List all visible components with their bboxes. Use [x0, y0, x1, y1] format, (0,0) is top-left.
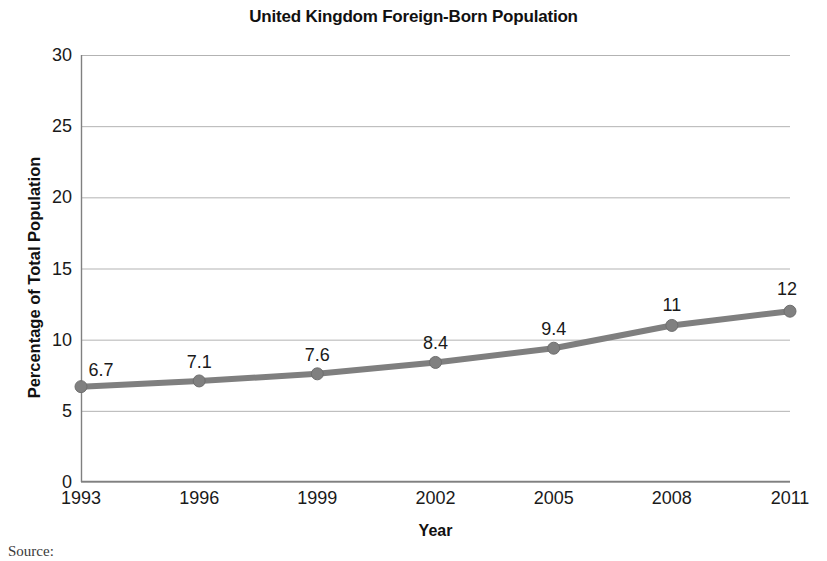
y-tick-label: 10 [12, 331, 72, 349]
x-tick-label: 2002 [381, 489, 491, 507]
x-tick-label: 1996 [144, 489, 254, 507]
chart-figure: United Kingdom Foreign-Born Population P… [0, 0, 827, 561]
x-axis-title: Year [81, 522, 790, 540]
x-tick-label: 1993 [26, 489, 136, 507]
line-path [81, 311, 790, 386]
chart-canvas [81, 55, 790, 482]
data-point-marker [75, 381, 87, 393]
y-tick-label: 30 [12, 46, 72, 64]
plot-area [81, 55, 790, 482]
chart-title: United Kingdom Foreign-Born Population [0, 7, 827, 27]
data-point-marker [784, 305, 796, 317]
data-point-marker [666, 319, 678, 331]
x-tick-label: 2008 [617, 489, 727, 507]
y-tick-label: 5 [12, 402, 72, 420]
data-point-marker [548, 342, 560, 354]
x-tick-label: 1999 [262, 489, 372, 507]
y-tick-label: 25 [12, 117, 72, 135]
data-point-marker [311, 368, 323, 380]
data-point-marker [430, 356, 442, 368]
x-tick-label: 2011 [735, 489, 827, 507]
source-caption: Source: [8, 543, 54, 560]
gridlines [81, 56, 790, 483]
x-tick-label: 2005 [499, 489, 609, 507]
data-point-marker [193, 375, 205, 387]
series-line [81, 311, 790, 386]
x-axis-tick-labels: 1993199619992002200520082011 [81, 489, 790, 515]
y-tick-label: 20 [12, 188, 72, 206]
y-tick-label: 15 [12, 260, 72, 278]
y-axis-tick-labels: 051015202530 [6, 55, 72, 482]
